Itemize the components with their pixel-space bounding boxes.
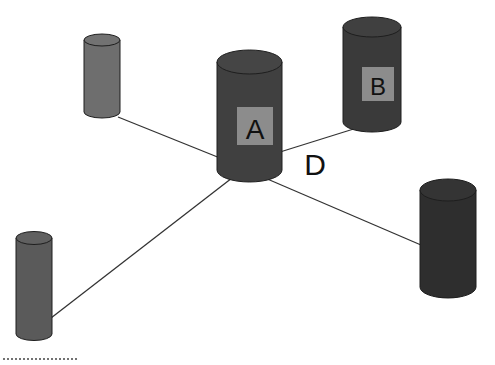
cylinder-node-right[interactable]: [420, 179, 476, 298]
edge-a-right: [265, 178, 421, 245]
node-label-a: A: [246, 114, 265, 145]
cylinder-node-b[interactable]: B: [343, 17, 401, 132]
edge-a-top-left: [118, 117, 220, 158]
cylinder-node-a[interactable]: A: [217, 50, 282, 182]
network-diagram: A B D: [0, 0, 495, 365]
cylinder-node-bottom-left[interactable]: [16, 232, 52, 341]
edge-a-bottom-left: [51, 178, 232, 318]
edge-label-d: D: [304, 148, 326, 181]
node-label-b: B: [370, 73, 386, 100]
cylinder-node-top-left[interactable]: [84, 34, 120, 118]
